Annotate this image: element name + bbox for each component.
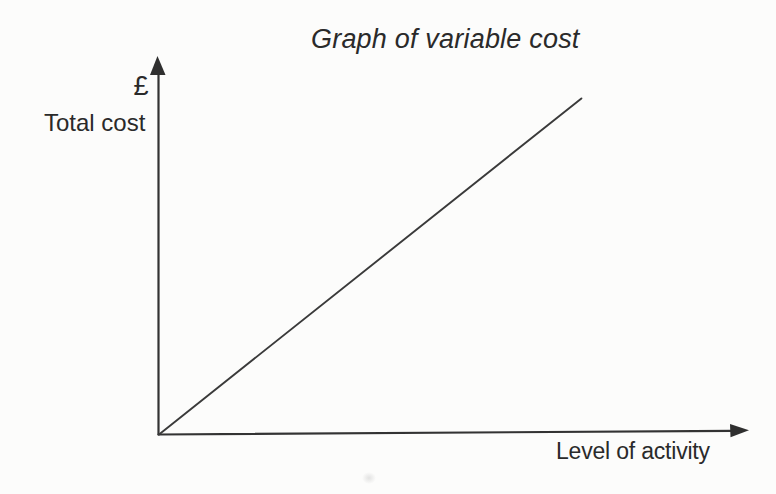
variable-cost-line xyxy=(159,98,581,434)
y-axis-arrowhead-icon xyxy=(150,56,166,75)
variable-cost-figure: Graph of variable cost £ Total cost Leve… xyxy=(0,0,776,494)
plot-area xyxy=(0,0,776,494)
x-axis xyxy=(159,431,733,435)
scan-smudge xyxy=(362,472,376,484)
x-axis-arrowhead-icon xyxy=(730,424,749,437)
